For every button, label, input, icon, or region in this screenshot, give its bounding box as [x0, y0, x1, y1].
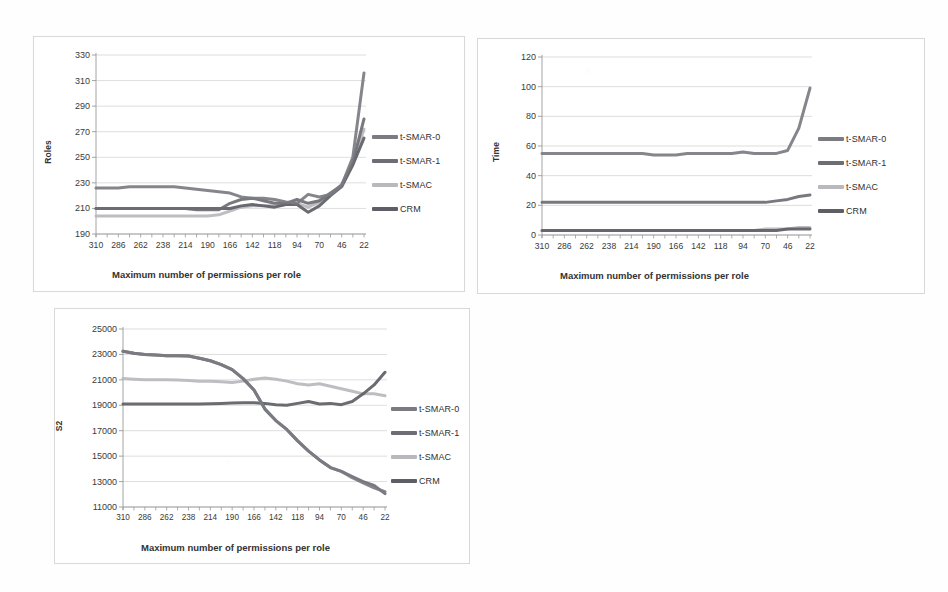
y-tick-label: 80	[478, 111, 536, 121]
x-tick-label: 46	[337, 240, 347, 250]
y-tick-label: 17000	[55, 426, 117, 436]
chart-panel-roles: Roles Maximum number of permissions per …	[33, 36, 465, 292]
legend-item: t-SMAR-1	[372, 156, 440, 166]
x-tick-label: 94	[292, 240, 302, 250]
x-tick-label: 262	[133, 240, 147, 250]
legend-label: CRM	[400, 204, 421, 214]
legend-item: CRM	[391, 476, 459, 486]
x-tick-label: 46	[783, 241, 793, 251]
plot-area-time: Time Maximum number of permissions per r…	[478, 39, 924, 293]
y-tick-label: 100	[478, 82, 536, 92]
x-axis-title-s2: Maximum number of permissions per role	[93, 542, 378, 553]
x-tick-label: 286	[557, 241, 571, 251]
legend-swatch-t-smar-0	[391, 407, 417, 411]
legend-roles: t-SMAR-0t-SMAR-1t-SMACCRM	[372, 132, 440, 214]
x-tick-label: 190	[225, 513, 239, 522]
y-tick-label: 250	[34, 152, 90, 162]
legend-label: t-SMAC	[419, 452, 451, 462]
y-tick-label: 210	[34, 203, 90, 213]
x-axis-title-roles: Maximum number of permissions per role	[64, 269, 349, 280]
legend-item: t-SMAR-1	[818, 158, 886, 168]
y-tick-label: 21000	[55, 375, 117, 385]
legend-item: t-SMAR-0	[818, 134, 886, 144]
legend-item: t-SMAR-0	[372, 132, 440, 142]
legend-swatch-crm	[372, 207, 398, 211]
x-tick-label: 310	[116, 513, 130, 522]
legend-s2: t-SMAR-0t-SMAR-1t-SMACCRM	[391, 404, 459, 486]
x-tick-label: 166	[669, 241, 683, 251]
x-tick-label: 166	[247, 513, 261, 522]
legend-label: t-SMAC	[846, 182, 878, 192]
x-tick-label: 238	[156, 240, 170, 250]
x-tick-label: 286	[111, 240, 125, 250]
legend-swatch-t-smar-0	[372, 135, 398, 139]
plot-area-roles: Roles Maximum number of permissions per …	[34, 37, 464, 291]
chart-panel-s2: S2 Maximum number of permissions per rol…	[54, 308, 470, 564]
x-tick-label: 22	[359, 240, 369, 250]
legend-swatch-t-smac	[372, 183, 398, 187]
legend-label: CRM	[419, 476, 440, 486]
y-tick-label: 120	[478, 52, 536, 62]
x-tick-label: 142	[245, 240, 259, 250]
y-tick-label: 40	[478, 171, 536, 181]
x-tick-label: 118	[714, 241, 728, 251]
y-tick-label: 15000	[55, 451, 117, 461]
legend-swatch-t-smac	[818, 185, 844, 189]
x-tick-label: 118	[291, 513, 304, 522]
legend-label: t-SMAR-0	[846, 134, 886, 144]
x-tick-label: 22	[380, 513, 389, 522]
x-tick-label: 262	[160, 513, 174, 522]
legend-item: t-SMAC	[372, 180, 440, 190]
y-tick-label: 0	[478, 230, 536, 240]
legend-label: t-SMAC	[400, 180, 432, 190]
x-tick-label: 190	[646, 241, 660, 251]
y-tick-label: 23000	[55, 349, 117, 359]
y-tick-label: 290	[34, 101, 90, 111]
legend-swatch-crm	[818, 209, 844, 213]
legend-item: t-SMAR-1	[391, 428, 459, 438]
legend-swatch-t-smar-1	[391, 431, 417, 435]
x-tick-label: 310	[89, 240, 103, 250]
x-tick-label: 94	[315, 513, 324, 522]
y-tick-label: 20	[478, 200, 536, 210]
legend-label: t-SMAR-0	[400, 132, 440, 142]
x-tick-label: 94	[738, 241, 748, 251]
x-tick-label: 238	[182, 513, 196, 522]
legend-label: t-SMAR-1	[419, 428, 459, 438]
y-tick-label: 60	[478, 141, 536, 151]
x-tick-label: 214	[624, 241, 638, 251]
plot-area-s2: S2 Maximum number of permissions per rol…	[55, 309, 469, 563]
x-tick-label: 190	[200, 240, 214, 250]
legend-swatch-t-smar-1	[372, 159, 398, 163]
legend-label: CRM	[846, 206, 867, 216]
x-tick-label: 286	[138, 513, 152, 522]
y-tick-label: 270	[34, 127, 90, 137]
legend-item: t-SMAC	[818, 182, 886, 192]
x-tick-label: 70	[315, 240, 325, 250]
x-tick-label: 238	[602, 241, 616, 251]
legend-swatch-t-smar-1	[818, 161, 844, 165]
legend-label: t-SMAR-0	[419, 404, 459, 414]
x-tick-label: 70	[761, 241, 771, 251]
x-tick-label: 142	[269, 513, 283, 522]
legend-item: t-SMAC	[391, 452, 459, 462]
y-tick-label: 11000	[55, 502, 117, 512]
x-tick-label: 214	[178, 240, 192, 250]
x-tick-label: 310	[535, 241, 549, 251]
legend-label: t-SMAR-1	[400, 156, 440, 166]
y-tick-label: 310	[34, 76, 90, 86]
x-tick-label: 166	[223, 240, 237, 250]
y-tick-label: 25000	[55, 324, 117, 334]
x-axis-title-time: Maximum number of permissions per role	[512, 270, 797, 281]
x-tick-label: 22	[805, 241, 815, 251]
legend-swatch-t-smac	[391, 455, 417, 459]
x-tick-label: 214	[203, 513, 217, 522]
y-tick-label: 330	[34, 50, 90, 60]
legend-swatch-t-smar-0	[818, 137, 844, 141]
y-tick-label: 19000	[55, 400, 117, 410]
chart-panel-time: Time Maximum number of permissions per r…	[477, 38, 925, 294]
figure-page: Roles Maximum number of permissions per …	[0, 0, 948, 592]
y-tick-label: 13000	[55, 477, 117, 487]
legend-item: CRM	[818, 206, 886, 216]
legend-item: t-SMAR-0	[391, 404, 459, 414]
